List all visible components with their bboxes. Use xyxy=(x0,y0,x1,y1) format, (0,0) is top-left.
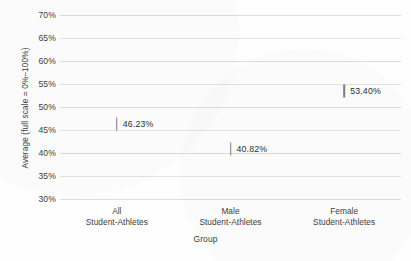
x-tick-label: MaleStudent-Athletes xyxy=(199,206,261,227)
x-tick-label-line1: Male xyxy=(221,206,239,216)
gridline xyxy=(60,130,401,131)
data-point-label: 40.82% xyxy=(237,144,268,154)
gridline xyxy=(60,38,401,39)
gridline xyxy=(60,84,401,85)
gridline xyxy=(60,199,401,200)
x-tick-label: FemaleStudent-Athletes xyxy=(313,206,375,227)
x-tick-label-line2: Student-Athletes xyxy=(199,217,261,228)
x-tick-label-line2: Student-Athletes xyxy=(313,217,375,228)
data-point-label: 46.23% xyxy=(123,119,154,129)
chart-figure: Average (full scale = 0%–100%) 70%65%60%… xyxy=(0,0,411,261)
x-tick-label-line1: All xyxy=(112,206,121,216)
y-tick-label: 65% xyxy=(26,33,56,43)
y-tick-label: 40% xyxy=(26,148,56,158)
data-point-marker xyxy=(230,142,232,155)
x-axis-title: Group xyxy=(0,234,411,244)
y-tick-label: 35% xyxy=(26,171,56,181)
y-tick-label: 30% xyxy=(26,194,56,204)
data-point-marker xyxy=(116,117,118,130)
y-axis-tick-labels: 70%65%60%55%50%45%40%35%30% xyxy=(23,0,56,261)
y-tick-label: 45% xyxy=(26,125,56,135)
data-point-marker xyxy=(343,84,345,97)
y-tick-label: 55% xyxy=(26,79,56,89)
y-tick-label: 60% xyxy=(26,56,56,66)
gridline xyxy=(60,61,401,62)
x-tick-label-line1: Female xyxy=(330,206,358,216)
gridline xyxy=(60,107,401,108)
gridline xyxy=(60,176,401,177)
gridline xyxy=(60,15,401,16)
y-tick-label: 70% xyxy=(26,10,56,20)
y-tick-label: 50% xyxy=(26,102,56,112)
x-tick-label: AllStudent-Athletes xyxy=(86,206,148,227)
x-tick-label-line2: Student-Athletes xyxy=(86,217,148,228)
data-point-label: 53.40% xyxy=(350,86,381,96)
